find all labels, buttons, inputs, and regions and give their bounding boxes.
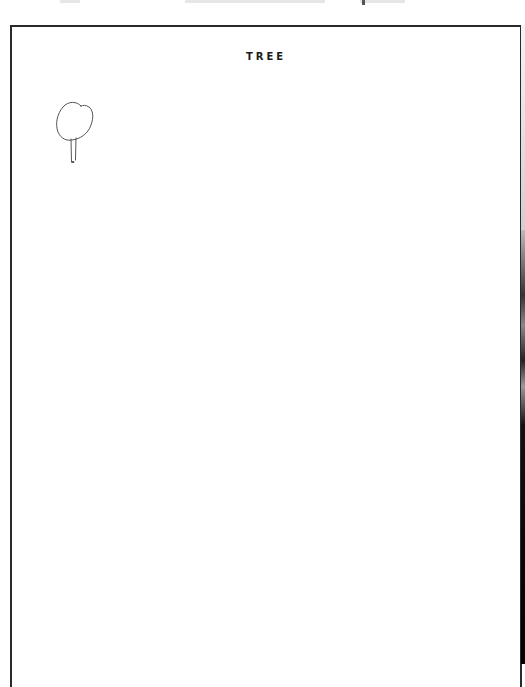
trunk-base-mark (72, 161, 74, 163)
tree-trunk (71, 138, 76, 162)
tree-crown (57, 102, 93, 140)
scan-edge (521, 25, 525, 230)
scan-edge-shadow (521, 230, 525, 664)
